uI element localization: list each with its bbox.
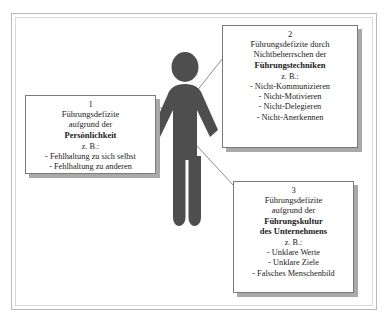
person-right-leg xyxy=(189,156,202,226)
box-2-fuehrungstechniken[interactable]: 2 Führungsdefizite durch Nichtbeherrsche… xyxy=(222,25,358,148)
person-head xyxy=(172,52,199,82)
box-1-item-1: - Fehlhaltung zu sich selbst xyxy=(30,152,151,162)
box-3-fuehrungskultur[interactable]: 3 Führungsdefizite aufgrund der Führungs… xyxy=(233,181,354,293)
box-1-item-2: - Fehlhaltung zu anderen xyxy=(30,162,151,172)
box-3-bold-line-1: Führungskultur xyxy=(238,216,349,226)
box-3-heading-line-1: Führungsdefizite xyxy=(238,195,349,205)
box-3-item-2: - Unklare Ziele xyxy=(238,258,349,268)
box-1-heading-line-1: Führungsdefizite xyxy=(30,109,151,119)
box-2-example-label: z. B.: xyxy=(227,71,353,82)
box-3-item-3: - Falsches Menschenbild xyxy=(238,269,349,279)
box-1-example-label: z. B.: xyxy=(30,141,151,152)
box-2-number: 2 xyxy=(227,29,353,39)
box-2-item-4: - Nicht-Anerkennen xyxy=(227,113,353,123)
box-3-item-1: - Unklare Werte xyxy=(238,248,349,258)
box-1-persoenlichkeit[interactable]: 1 Führungsdefizite aufgrund der Persönli… xyxy=(25,95,156,174)
box-2-item-1: - Nicht-Kommunizieren xyxy=(227,82,353,92)
box-1-bold-line-1: Persönlichkeit xyxy=(30,130,151,140)
box-1-number: 1 xyxy=(30,99,151,109)
box-3-example-label: z. B.: xyxy=(238,237,349,248)
box-3-heading-line-2: aufgrund der xyxy=(238,205,349,215)
box-2-heading-line-1: Führungsdefizite durch xyxy=(227,39,353,49)
box-3-bold-line-2: des Unternehmens xyxy=(238,226,349,236)
box-1-heading-line-2: aufgrund der xyxy=(30,119,151,129)
box-2-item-2: - Nicht-Motivieren xyxy=(227,92,353,102)
box-2-item-3: - Nicht-Delegieren xyxy=(227,102,353,112)
person-pictogram xyxy=(150,52,220,230)
person-left-leg xyxy=(173,156,186,226)
box-2-bold-line-1: Führungstechniken xyxy=(227,60,353,70)
person-torso-arms xyxy=(152,84,218,160)
diagram-canvas: 1 Führungsdefizite aufgrund der Persönli… xyxy=(0,0,389,324)
box-2-heading-line-2: Nichtbeherrschen der xyxy=(227,49,353,59)
box-3-number: 3 xyxy=(238,185,349,195)
